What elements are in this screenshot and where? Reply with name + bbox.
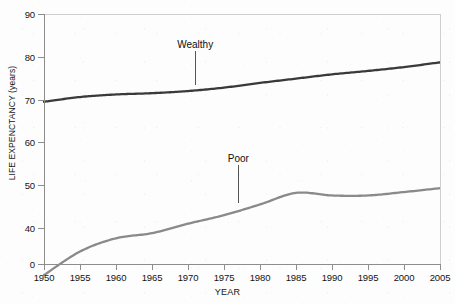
- x-tick-1985: [296, 265, 297, 270]
- x-tick-label-2000: 2000: [394, 272, 415, 283]
- x-tick-label-1960: 1960: [106, 272, 127, 283]
- x-tick-label-1990: 1990: [322, 272, 343, 283]
- y-tick-50: [38, 185, 44, 186]
- plot-frame-right: [440, 14, 441, 265]
- x-tick-1975: [224, 265, 225, 270]
- series-label-poor: Poor: [228, 153, 249, 164]
- x-tick-1995: [368, 265, 369, 270]
- x-tick-1955: [80, 265, 81, 270]
- leader-line-poor: [238, 165, 239, 203]
- x-tick-2005: [440, 265, 441, 270]
- x-tick-label-1985: 1985: [286, 272, 307, 283]
- series-line-poor: [44, 188, 440, 275]
- y-tick-70: [38, 100, 44, 101]
- leader-line-wealthy: [195, 51, 196, 85]
- y-axis-title: LIFE EXPENCTANCY (years): [7, 43, 17, 203]
- x-tick-1970: [188, 265, 189, 270]
- x-tick-label-1965: 1965: [142, 272, 163, 283]
- x-tick-2000: [404, 265, 405, 270]
- y-tick-label-60: 60: [16, 137, 35, 148]
- y-tick-80: [38, 57, 44, 58]
- x-tick-label-1970: 1970: [178, 272, 199, 283]
- y-axis-line: [44, 14, 45, 265]
- y-tick-60: [38, 142, 44, 143]
- x-tick-label-1975: 1975: [214, 272, 235, 283]
- x-tick-label-1950: 1950: [34, 272, 55, 283]
- x-tick-1980: [260, 265, 261, 270]
- x-tick-label-1980: 1980: [250, 272, 271, 283]
- y-tick-label-0: 0: [16, 259, 35, 270]
- x-tick-label-1995: 1995: [358, 272, 379, 283]
- y-tick-label-70: 70: [16, 94, 35, 105]
- x-tick-1950: [44, 265, 45, 270]
- x-tick-1960: [116, 265, 117, 270]
- x-tick-1965: [152, 265, 153, 270]
- x-tick-label-1955: 1955: [70, 272, 91, 283]
- x-axis-line: [44, 264, 441, 265]
- x-tick-1990: [332, 265, 333, 270]
- y-tick-label-50: 50: [16, 180, 35, 191]
- x-axis-title: YEAR: [0, 287, 455, 297]
- y-tick-label-90: 90: [16, 9, 35, 20]
- y-tick-40: [38, 228, 44, 229]
- series-label-wealthy: Wealthy: [177, 39, 213, 50]
- plot-frame-top: [44, 14, 441, 15]
- y-tick-label-80: 80: [16, 51, 35, 62]
- y-tick-label-40: 40: [16, 223, 35, 234]
- series-line-wealthy: [44, 62, 440, 101]
- chart-figure: 0405060708090 19501955196019651970197519…: [0, 0, 455, 304]
- y-tick-90: [38, 14, 44, 15]
- x-tick-label-2005: 2005: [430, 272, 451, 283]
